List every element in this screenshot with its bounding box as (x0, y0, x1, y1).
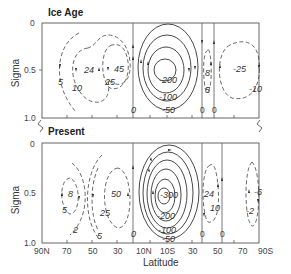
xtick-90N: 90N (34, 246, 50, 256)
label-minus-200b: -200 (157, 211, 175, 221)
label-minus-300: -300 (160, 190, 178, 200)
label-minus-6: -6 (254, 187, 262, 197)
label-25: 25 (104, 77, 116, 87)
label-0c: 0 (212, 105, 217, 115)
xlabel: Latitude (143, 257, 179, 268)
label-24b: 24 (203, 189, 214, 199)
present-panel: Present 0 0.5 1.0 Sigma Sigma 8 5 2 5 25… (10, 58, 262, 248)
label-50: 50 (111, 189, 121, 199)
xtick-10N: 10N (136, 246, 152, 256)
label-25b: 25 (99, 208, 111, 218)
xtick-30N: 30 (113, 246, 123, 256)
xtick-50S: 50 (213, 246, 223, 256)
label-24: 24 (83, 65, 94, 75)
ice-age-frame (42, 23, 259, 118)
ylabel-top: Sigma (10, 58, 21, 87)
ytick-0-5b: 0.5 (24, 188, 36, 198)
label-10b: 10 (210, 203, 220, 213)
label-0e: 0 (200, 229, 205, 239)
xtick-30S: 30 (188, 246, 198, 256)
label-0: 0 (131, 105, 136, 115)
xtick-90S: 90S (258, 246, 273, 256)
xtick-10S: 10S (160, 246, 175, 256)
meridional-circulation-diagram: Ice Age 0 0.5 1.0 5 10 24 25 45 0 (0, 0, 291, 274)
xtick-70N: 70 (62, 246, 72, 256)
xtick-70S: 70 (238, 246, 248, 256)
label-45: 45 (114, 64, 125, 74)
label-0d: 0 (131, 229, 136, 239)
label-0b: 0 (200, 105, 205, 115)
label-5c: 5 (62, 205, 68, 215)
ytick-0b: 0 (30, 139, 35, 149)
present-title: Present (48, 126, 85, 137)
label-minus-50: -50 (162, 105, 175, 115)
label-minus-2: -2 (246, 206, 254, 216)
x-axis: 90N 70 50 30 10N 10S 30 50 70 90S Latitu… (34, 240, 273, 268)
label-minus-50b: -50 (162, 234, 175, 244)
label-5d: 5 (97, 231, 103, 241)
contour-5 (59, 33, 79, 112)
label-8b: 8 (68, 189, 73, 199)
ytick-0-5: 0.5 (24, 65, 36, 75)
label-0f: 0 (220, 229, 225, 239)
label-minus-25: -25 (233, 64, 247, 74)
label-5: 5 (58, 77, 64, 87)
ice-age-panel: Ice Age 0 0.5 1.0 5 10 24 25 45 0 (24, 7, 262, 123)
label-minus-100: -100 (159, 92, 177, 102)
label-8: 8 (205, 68, 210, 78)
ytick-1-0: 1.0 (24, 113, 36, 123)
xtick-50N: 50 (88, 246, 98, 256)
ice-age-title: Ice Age (48, 7, 84, 18)
label-5b: 5 (205, 85, 211, 95)
label-minus-200: -200 (159, 75, 177, 85)
label-10: 10 (72, 83, 82, 93)
label-2: 2 (72, 225, 78, 235)
ylabel-bottom: Sigma (10, 185, 21, 214)
label-minus-10: -10 (249, 84, 262, 94)
ytick-0: 0 (30, 18, 35, 28)
